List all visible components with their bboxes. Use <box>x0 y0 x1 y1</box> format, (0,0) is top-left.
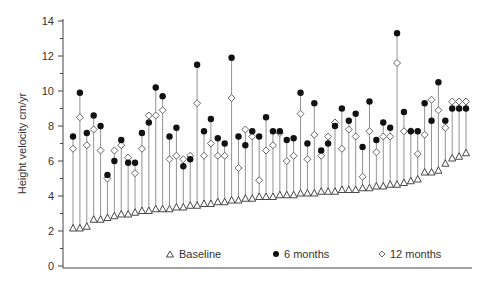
six-month-marker <box>325 140 331 146</box>
baseline-marker <box>318 188 325 195</box>
baseline-marker <box>173 204 180 211</box>
baseline-marker <box>311 190 318 197</box>
six-month-marker <box>435 79 441 85</box>
baseline-marker <box>380 183 387 190</box>
baseline-marker <box>428 169 435 176</box>
baseline-marker <box>332 188 339 195</box>
twelve-month-marker <box>228 95 235 102</box>
baseline-marker <box>256 193 263 200</box>
twelve-month-marker <box>435 107 442 114</box>
baseline-marker <box>235 197 242 204</box>
six-month-marker <box>373 137 379 143</box>
baseline-marker <box>214 198 221 205</box>
baseline-marker <box>352 186 359 193</box>
chart: 02468101214Height velocity cm/yrBaseline… <box>0 0 493 287</box>
twelve-month-marker <box>338 145 345 152</box>
six-month-marker <box>297 90 303 96</box>
baseline-marker <box>221 198 228 205</box>
six-month-marker <box>415 128 421 134</box>
twelve-month-marker <box>421 131 428 138</box>
baseline-marker <box>104 214 111 221</box>
baseline-marker <box>456 153 463 160</box>
six-month-marker <box>242 142 248 148</box>
y-tick-label: 2 <box>48 225 54 237</box>
baseline-marker <box>463 149 470 156</box>
twelve-month-marker <box>76 114 83 121</box>
baseline-marker <box>125 211 132 218</box>
twelve-month-marker <box>442 124 449 131</box>
six-month-marker <box>173 125 179 131</box>
six-month-marker <box>125 160 131 166</box>
twelve-month-marker <box>325 133 332 140</box>
baseline-marker <box>435 167 442 174</box>
twelve-month-marker <box>304 156 311 163</box>
twelve-month-marker <box>207 140 214 147</box>
baseline-marker <box>132 209 139 216</box>
baseline-marker <box>97 216 104 223</box>
six-month-marker <box>387 125 393 131</box>
twelve-month-marker <box>173 152 180 159</box>
twelve-month-marker <box>373 149 380 156</box>
baseline-marker <box>76 225 83 232</box>
baseline-marker <box>359 184 366 191</box>
six-month-marker <box>332 123 338 129</box>
six-month-marker <box>215 135 221 141</box>
baseline-marker <box>414 176 421 183</box>
six-month-marker <box>394 30 400 36</box>
six-month-marker <box>339 105 345 111</box>
six-month-marker <box>249 128 255 134</box>
y-tick-label: 14 <box>42 15 54 27</box>
baseline-marker <box>276 191 283 198</box>
baseline-marker <box>180 204 187 211</box>
twelve-month-marker <box>221 152 228 159</box>
twelve-month-marker <box>194 100 201 107</box>
six-month-marker <box>153 84 159 90</box>
six-month-marker <box>380 119 386 125</box>
twelve-month-marker <box>235 165 242 172</box>
legend-twelve-months-icon <box>379 251 385 257</box>
baseline-marker <box>449 155 456 162</box>
baseline-marker <box>263 193 270 200</box>
six-month-marker <box>201 128 207 134</box>
six-month-marker <box>77 90 83 96</box>
twelve-month-marker <box>380 133 387 140</box>
six-month-marker <box>118 137 124 143</box>
six-month-marker <box>304 140 310 146</box>
baseline-marker <box>345 186 352 193</box>
twelve-month-marker <box>366 128 373 135</box>
twelve-month-marker <box>297 110 304 117</box>
baseline-marker <box>421 169 428 176</box>
twelve-month-marker <box>345 126 352 133</box>
six-month-marker <box>208 116 214 122</box>
baseline-marker <box>283 191 290 198</box>
baseline-marker <box>70 225 77 232</box>
twelve-month-marker <box>214 152 221 159</box>
six-month-marker <box>449 105 455 111</box>
six-month-marker <box>70 133 76 139</box>
twelve-month-marker <box>414 151 421 158</box>
baseline-marker <box>111 212 118 219</box>
six-month-marker <box>428 118 434 124</box>
twelve-month-marker <box>70 145 77 152</box>
baseline-marker <box>90 216 97 223</box>
scatter-plot: 02468101214Height velocity cm/yrBaseline… <box>0 0 493 287</box>
six-month-marker <box>263 114 269 120</box>
six-month-marker <box>111 158 117 164</box>
six-month-marker <box>463 105 469 111</box>
six-month-marker <box>139 130 145 136</box>
twelve-month-marker <box>166 156 173 163</box>
twelve-month-marker <box>269 142 276 149</box>
baseline-marker <box>304 190 311 197</box>
six-month-marker <box>456 105 462 111</box>
six-month-marker <box>146 119 152 125</box>
twelve-month-marker <box>311 131 318 138</box>
six-month-marker <box>359 144 365 150</box>
baseline-marker <box>228 197 235 204</box>
legend-twelve-months-label: 12 months <box>390 248 442 260</box>
six-month-marker <box>352 111 358 117</box>
six-month-marker <box>104 172 110 178</box>
twelve-month-marker <box>283 158 290 165</box>
twelve-month-marker <box>159 107 166 114</box>
six-month-marker <box>311 100 317 106</box>
twelve-month-marker <box>359 173 366 180</box>
